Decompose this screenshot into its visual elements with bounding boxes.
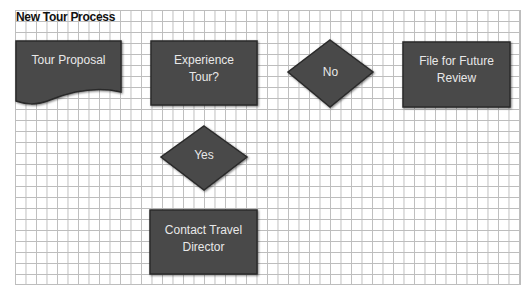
node-label-yes: Yes: [161, 139, 247, 171]
node-label-tour-proposal: Tour Proposal: [16, 46, 121, 74]
node-label-no: No: [288, 56, 373, 88]
node-label-file-for-future-review: File for Future Review: [403, 42, 510, 98]
node-label-experience-tour: Experience Tour?: [151, 41, 257, 97]
node-label-contact-travel-director: Contact Travel Director: [150, 210, 257, 268]
flowchart-canvas: New Tour Process Tour Proposal Experienc…: [0, 0, 529, 297]
